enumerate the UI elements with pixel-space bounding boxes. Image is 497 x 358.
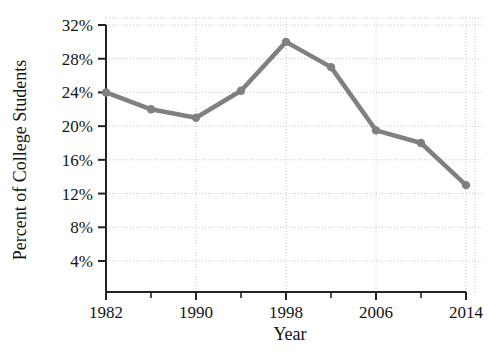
y-axis-ticks [98, 25, 106, 261]
y-tick-label: 20% [62, 117, 93, 136]
data-point [237, 87, 245, 95]
y-tick-label: 28% [62, 50, 93, 69]
x-axis-ticks [106, 292, 466, 300]
axis-lines [106, 25, 466, 292]
y-tick-label: 4% [70, 252, 93, 271]
y-axis-tick-labels: 32%28%24%20%16%12%8%4% [62, 16, 93, 271]
y-tick-label: 16% [62, 151, 93, 170]
data-point [282, 38, 290, 46]
x-tick-label: 2006 [359, 303, 393, 322]
x-axis-tick-labels: 19821990199820062014 [89, 303, 484, 322]
y-tick-label: 12% [62, 185, 93, 204]
y-tick-label: 24% [62, 83, 93, 102]
data-point [462, 181, 470, 189]
x-tick-label: 1998 [269, 303, 303, 322]
x-tick-label: 1990 [179, 303, 213, 322]
data-point [147, 105, 155, 113]
data-point [372, 126, 380, 134]
y-tick-label: 8% [70, 218, 93, 237]
chart-canvas: 32%28%24%20%16%12%8%4% 19821990199820062… [0, 0, 497, 358]
data-point [102, 88, 110, 96]
x-tick-label: 2014 [449, 303, 484, 322]
data-point [327, 63, 335, 71]
grid-lines-horizontal [106, 18, 484, 261]
data-point [192, 114, 200, 122]
grid-lines-vertical [106, 18, 475, 292]
x-tick-label: 1982 [89, 303, 123, 322]
line-chart: 32%28%24%20%16%12%8%4% 19821990199820062… [0, 0, 497, 358]
data-point [417, 139, 425, 147]
y-axis-title: Percent of College Students [10, 60, 30, 260]
y-tick-label: 32% [62, 16, 93, 35]
x-axis-title: Year [273, 324, 306, 344]
